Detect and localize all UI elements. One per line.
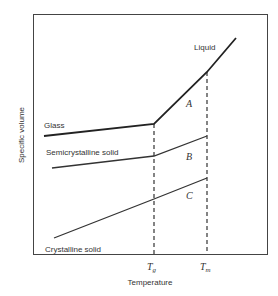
curve-b-label: B	[186, 151, 192, 162]
specific-volume-diagram: Liquid Glass Semicrystalline solid Cryst…	[0, 0, 278, 296]
curve-c-label: C	[186, 190, 193, 201]
y-axis-label: Specific volume	[17, 106, 26, 163]
curve-a-label: A	[185, 98, 193, 109]
glass-label: Glass	[44, 121, 64, 130]
tm-tick-label: Tm	[200, 261, 211, 274]
crystalline-label: Crystalline solid	[45, 245, 101, 254]
crystalline-curve	[54, 178, 207, 238]
x-axis-label: Temperature	[128, 278, 173, 287]
liquid-label: Liquid	[194, 43, 215, 52]
tg-tick-label: Tg	[147, 261, 157, 274]
semicrystalline-label: Semicrystalline solid	[46, 148, 118, 157]
plot-frame	[34, 15, 268, 255]
